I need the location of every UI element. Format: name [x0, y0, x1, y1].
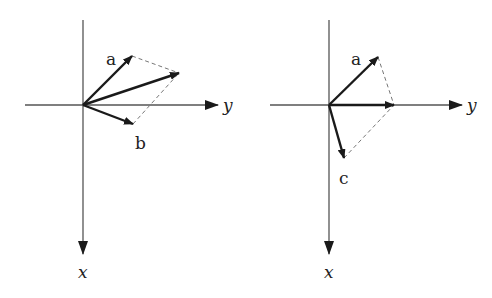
- vector-diagrams: a b y x a c y x: [0, 0, 492, 298]
- right-vector-c: [329, 105, 344, 158]
- right-dashed-c-to-resultant: [344, 105, 394, 158]
- left-diagram: a b y x: [25, 20, 233, 282]
- right-label-x: x: [324, 262, 334, 282]
- left-label-y: y: [222, 95, 233, 115]
- left-vector-b: [83, 105, 133, 124]
- right-label-y: y: [466, 95, 477, 115]
- left-label-a: a: [106, 49, 116, 69]
- right-label-a: a: [351, 49, 361, 69]
- right-dashed-a-to-resultant: [378, 57, 394, 105]
- left-dashed-a-to-resultant: [132, 56, 179, 73]
- left-label-b: b: [135, 133, 146, 153]
- left-label-x: x: [78, 262, 88, 282]
- right-diagram: a c y x: [270, 20, 477, 282]
- right-label-c: c: [339, 168, 349, 188]
